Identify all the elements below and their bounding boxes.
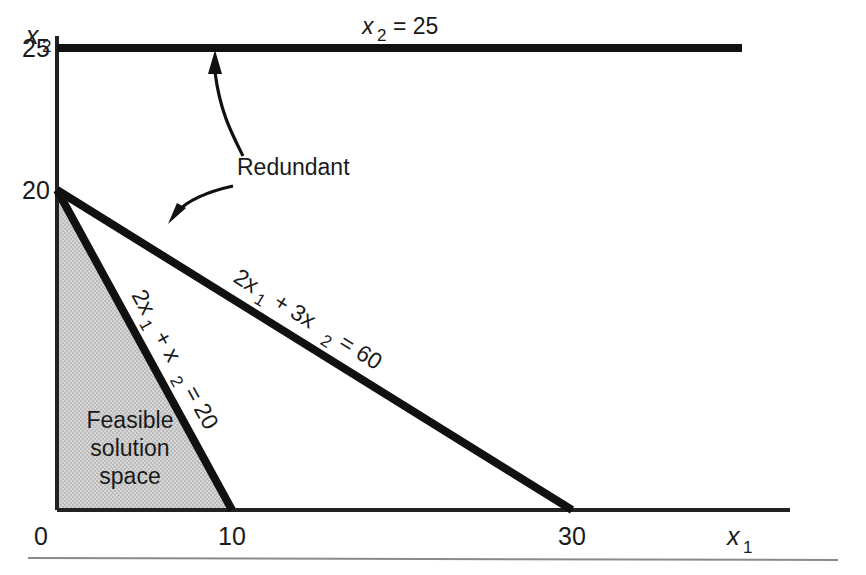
x-axis-label-main: x (726, 522, 741, 550)
linear-programming-graph: x 2 x 1 25 20 0 10 30 x 2 = 25 2x 1 + 3x… (0, 0, 866, 575)
feasible-region-label-line2: solution (90, 435, 169, 461)
redundant-arrow-lower (168, 186, 233, 224)
constraint-label-2x1-3x2-60: 2x 1 + 3x 2 = 60 (226, 263, 387, 380)
feasible-region-label: Feasible solution space (87, 407, 174, 489)
constraint-label-20-s2: 2 (166, 373, 187, 390)
feasible-region-label-line1: Feasible (87, 407, 174, 433)
y-tick-label-25: 25 (22, 34, 50, 62)
bottom-divider (28, 558, 838, 560)
constraint-label-x2-25-sub: 2 (377, 26, 386, 45)
redundant-annotation-label: Redundant (237, 154, 350, 180)
x-tick-label-30: 30 (558, 522, 586, 550)
constraint-label-x2-25: x 2 = 25 (361, 13, 438, 45)
redundant-arrow-upper (208, 50, 243, 156)
constraint-label-20-p1: 2x (127, 285, 162, 319)
constraint-label-x2-25-rhs: = 25 (393, 13, 438, 39)
x-axis-label-subscript: 1 (743, 538, 752, 557)
x-tick-label-10: 10 (218, 522, 246, 550)
x-axis-label: x 1 (726, 522, 752, 557)
constraint-label-x2-25-main: x (361, 13, 375, 39)
feasible-region-label-line3: space (99, 463, 160, 489)
constraint-label-20-p2: + x (149, 326, 187, 366)
x-tick-label-0: 0 (34, 522, 48, 550)
y-tick-label-20: 20 (22, 176, 50, 204)
constraint-label-20-s1: 1 (135, 317, 156, 334)
